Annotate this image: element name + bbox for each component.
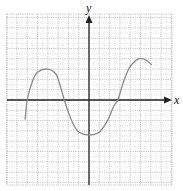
y-axis-arrow-icon: [86, 15, 93, 23]
axes: x y: [7, 1, 180, 185]
x-axis-arrow-icon: [164, 97, 172, 104]
x-axis-label: x: [173, 93, 180, 107]
function-graph: x y: [0, 0, 183, 191]
y-axis-label: y: [85, 1, 92, 15]
